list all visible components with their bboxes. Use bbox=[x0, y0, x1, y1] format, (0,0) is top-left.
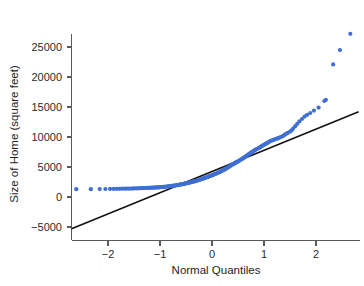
data-point bbox=[108, 187, 112, 191]
y-axis-ticks: −50000500010000150002000025000 bbox=[31, 41, 71, 233]
data-point bbox=[331, 62, 335, 66]
x-tick-label: 0 bbox=[209, 248, 215, 260]
data-point bbox=[338, 48, 342, 52]
data-point bbox=[89, 187, 93, 191]
x-tick-label: 1 bbox=[261, 248, 267, 260]
y-axis-title: Size of Home (square feet) bbox=[8, 65, 20, 203]
scatter-points-group bbox=[74, 32, 352, 192]
data-point bbox=[98, 187, 102, 191]
x-axis-ticks: −2−1012 bbox=[102, 241, 319, 261]
data-point bbox=[308, 111, 312, 115]
data-point bbox=[324, 98, 328, 102]
y-tick-label: −5000 bbox=[31, 221, 62, 233]
x-axis-title: Normal Quantiles bbox=[172, 264, 261, 276]
data-point bbox=[312, 109, 316, 113]
data-point bbox=[74, 187, 78, 191]
y-tick-label: 5000 bbox=[38, 161, 62, 173]
y-tick-label: 15000 bbox=[31, 101, 62, 113]
reference-line bbox=[72, 112, 359, 229]
y-tick-label: 10000 bbox=[31, 131, 62, 143]
chart-canvas: Size of Home (square feet) −500005000100… bbox=[0, 0, 364, 286]
qq-plot-figure: Size of Home (square feet) −500005000100… bbox=[0, 0, 364, 286]
data-point bbox=[348, 32, 352, 36]
y-tick-label: 20000 bbox=[31, 71, 62, 83]
data-point bbox=[103, 187, 107, 191]
y-tick-label: 25000 bbox=[31, 41, 62, 53]
x-tick-label: 2 bbox=[313, 248, 319, 260]
data-point bbox=[317, 106, 321, 110]
x-tick-label: −1 bbox=[154, 248, 167, 260]
x-tick-label: −2 bbox=[102, 248, 115, 260]
y-axis-title-group: Size of Home (square feet) bbox=[8, 65, 20, 203]
y-tick-label: 0 bbox=[56, 191, 62, 203]
